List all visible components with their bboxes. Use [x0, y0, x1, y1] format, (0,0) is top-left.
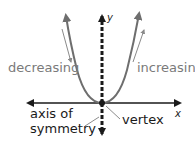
- vertex-label: vertex: [122, 112, 164, 127]
- axis-of-symmetry-label-line2: symmetry: [30, 121, 96, 136]
- y-axis-label: y: [106, 12, 114, 23]
- vertex-point: [99, 100, 105, 106]
- vertex-leader-line: [106, 106, 120, 119]
- parabola-diagram: decreasing increasing axis of symmetry v…: [0, 0, 195, 141]
- decreasing-label: decreasing: [8, 60, 79, 75]
- axis-of-symmetry-label-line1: axis of: [30, 106, 73, 121]
- x-axis-label: x: [174, 108, 181, 119]
- increasing-label: increasing: [137, 60, 195, 75]
